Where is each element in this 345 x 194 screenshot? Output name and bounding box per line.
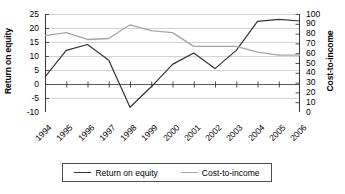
legend-item[interactable]: Return on equity [74, 168, 157, 178]
chart-figure: Return on equity Cost-to-income 25201510… [0, 0, 345, 194]
legend-line-icon [181, 172, 198, 173]
chart-legend: Return on equityCost-to-income [62, 163, 272, 182]
legend-line-icon [74, 172, 91, 173]
legend-label: Cost-to-income [202, 168, 260, 178]
legend-item[interactable]: Cost-to-income [181, 168, 260, 178]
legend-label: Return on equity [95, 168, 157, 178]
